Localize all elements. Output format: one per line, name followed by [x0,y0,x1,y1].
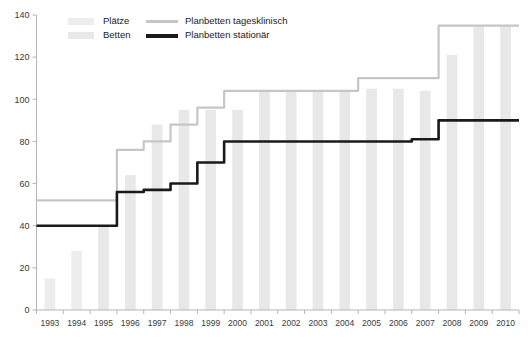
bar-2003 [313,91,324,310]
chart-container: 020406080100120140 199319941995199619971… [0,0,528,343]
x-tick-label-1999: 1999 [201,318,220,328]
line-series-tagesklinisch [37,26,520,201]
axis-lines [37,15,520,310]
legend-label: Planbetten stationär [185,29,270,40]
legend-marker-swatch [68,32,94,39]
y-tick-label-20: 20 [19,263,29,273]
bar-1998 [179,110,190,310]
bar-2008 [447,55,458,310]
x-tick-label-1995: 1995 [94,318,113,328]
x-tick-label-2000: 2000 [228,318,247,328]
x-tick-label-2001: 2001 [255,318,274,328]
bar-2009 [473,26,484,310]
bar-2010 [500,26,511,310]
legend-label: Planbetten tagesklinisch [185,15,287,26]
x-tick-label-2009: 2009 [469,318,488,328]
lines-layer [37,26,520,226]
x-tick-label-1994: 1994 [67,318,86,328]
y-tick-label-100: 100 [14,95,29,105]
bar-2004 [339,91,350,310]
legend-marker-swatch [68,18,94,25]
y-tick-label-40: 40 [19,221,29,231]
bar-2005 [366,89,377,310]
bar-1997 [152,125,163,310]
line-series-stationaer [37,120,520,225]
x-tick-label-2004: 2004 [335,318,354,328]
x-tick-label-2006: 2006 [389,318,408,328]
x-tick-label-2010: 2010 [496,318,515,328]
bar-1993 [45,278,56,310]
y-tick-label-80: 80 [19,137,29,147]
x-tick-label-2007: 2007 [416,318,435,328]
bar-1994 [71,251,82,310]
x-tick-label-1996: 1996 [121,318,140,328]
y-tick-label-0: 0 [24,305,29,315]
bar-1995 [98,226,109,310]
y-tick-label-60: 60 [19,179,29,189]
bars-layer [45,26,511,310]
bar-2007 [420,91,431,310]
x-tick-label-1993: 1993 [40,318,59,328]
bar-2006 [393,89,404,310]
x-tick-label-2008: 2008 [443,318,462,328]
x-tick-label-1997: 1997 [148,318,167,328]
legend-label: Plätze [103,15,129,26]
legend-label: Betten [103,29,130,40]
x-axis-tick-labels: 1993199419951996199719981999200020012002… [40,318,515,328]
bar-line-combo-chart: 020406080100120140 199319941995199619971… [0,0,528,343]
y-tick-label-140: 140 [14,10,29,20]
y-tick-label-120: 120 [14,52,29,62]
bar-2001 [259,91,270,310]
y-axis-tick-labels: 020406080100120140 [14,10,29,315]
x-tick-label-1998: 1998 [174,318,193,328]
bar-1996 [125,175,136,310]
x-tick-label-2005: 2005 [362,318,381,328]
chart-legend: PlätzeBettenPlanbetten tagesklinischPlan… [68,15,287,40]
bar-2002 [286,91,297,310]
x-tick-label-2003: 2003 [308,318,327,328]
x-tick-label-2002: 2002 [282,318,301,328]
legend-marker-line [146,34,178,38]
bar-2000 [232,110,243,310]
legend-marker-line [146,20,178,23]
bar-1999 [205,110,216,310]
